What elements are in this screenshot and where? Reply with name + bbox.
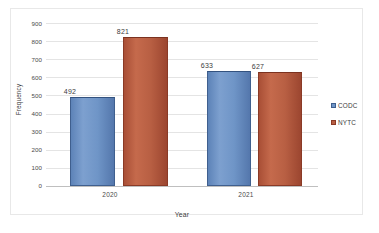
gridline-700	[46, 59, 318, 60]
y-axis-tick-labels: 900 800 700 600 500 400 300 200 100 0	[4, 0, 42, 233]
y-tick-500: 500	[8, 93, 42, 99]
legend-label-nytc: NYTC	[338, 119, 356, 126]
chart-container: 900 800 700 600 500 400 300 200 100 0 49…	[0, 0, 379, 233]
data-label-nytc-2021: 627	[243, 63, 273, 70]
plot-area	[46, 23, 318, 186]
legend-swatch-icon-codc	[331, 103, 336, 108]
y-axis-title: Frequency	[15, 70, 22, 130]
x-tick-2021: 2021	[231, 192, 261, 199]
y-tick-700: 700	[8, 57, 42, 63]
data-label-codc-2021: 633	[192, 62, 222, 69]
x-tick-2020: 2020	[95, 192, 125, 199]
legend-swatch-icon-nytc	[331, 120, 336, 125]
y-tick-0: 0	[8, 183, 42, 189]
gridline-800	[46, 41, 318, 42]
gridline-900	[46, 23, 318, 24]
bar-nytc-2021[interactable]	[258, 72, 302, 186]
bar-codc-2021[interactable]	[207, 71, 251, 186]
data-label-nytc-2020: 821	[108, 28, 138, 35]
y-tick-400: 400	[8, 111, 42, 117]
y-tick-100: 100	[8, 165, 42, 171]
legend-item-codc[interactable]: CODC	[331, 101, 375, 109]
x-axis-line	[46, 186, 318, 187]
y-tick-200: 200	[8, 147, 42, 153]
x-axis-title: Year	[46, 211, 318, 218]
bar-codc-2020[interactable]	[70, 97, 115, 186]
legend-item-nytc[interactable]: NYTC	[331, 118, 375, 126]
y-tick-300: 300	[8, 129, 42, 135]
y-tick-600: 600	[8, 75, 42, 81]
legend-label-codc: CODC	[338, 102, 357, 109]
chart-legend: CODC NYTC	[331, 101, 375, 135]
bar-nytc-2020[interactable]	[123, 37, 168, 186]
data-label-codc-2020: 492	[55, 88, 85, 95]
y-tick-900: 900	[8, 21, 42, 27]
y-tick-800: 800	[8, 39, 42, 45]
